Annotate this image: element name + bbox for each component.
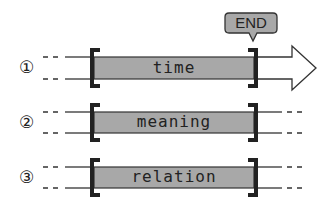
row-1-label: time bbox=[94, 57, 254, 79]
row-3-label: relation bbox=[94, 166, 254, 188]
row-1-marker: ① bbox=[19, 57, 34, 77]
row-2-marker: ② bbox=[19, 112, 34, 132]
row-3-marker: ③ bbox=[19, 167, 34, 187]
end-label: END bbox=[225, 13, 277, 33]
row-2-label: meaning bbox=[94, 111, 254, 133]
